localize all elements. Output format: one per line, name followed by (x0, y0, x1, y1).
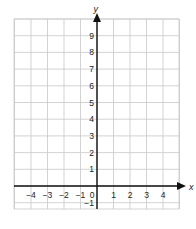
x-axis-arrow-icon (177, 182, 186, 190)
y-tick-label: 2 (89, 148, 94, 158)
coordinate-plane: x y −4−3−2−101234 −1123456789 (0, 0, 196, 229)
y-tick-label: 1 (89, 164, 94, 174)
y-tick-label: 5 (89, 98, 94, 108)
x-tick-label: −4 (26, 190, 36, 200)
y-tick-label: 4 (89, 114, 94, 124)
y-tick-label: 3 (89, 131, 94, 141)
y-tick-label: 9 (89, 31, 94, 41)
x-tick-label: −2 (59, 190, 69, 200)
y-tick-label: 7 (89, 64, 94, 74)
x-tick-labels: −4−3−2−101234 (26, 190, 165, 200)
x-tick-label: −3 (43, 190, 53, 200)
x-axis-label: x (188, 182, 194, 192)
y-tick-label: 6 (89, 81, 94, 91)
axes (14, 13, 186, 209)
x-tick-label: 1 (111, 190, 116, 200)
y-axis-label: y (93, 4, 99, 14)
y-tick-label: −1 (84, 198, 94, 208)
y-axis-arrow-icon (93, 13, 101, 22)
x-tick-label: 3 (144, 190, 149, 200)
x-tick-label: 2 (128, 190, 133, 200)
x-tick-label: 4 (161, 190, 166, 200)
y-tick-label: 8 (89, 47, 94, 57)
